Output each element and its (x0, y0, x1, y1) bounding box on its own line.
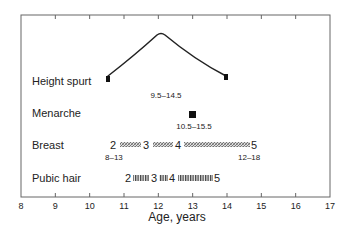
stage-5: 5 (251, 139, 257, 151)
stage-2: 2 (125, 172, 131, 184)
stage-2: 2 (110, 139, 116, 151)
plot-frame (21, 15, 330, 197)
x-tick-label: 11 (119, 201, 128, 211)
row-label: Menarche (32, 107, 81, 119)
height-spurt-curve (108, 34, 226, 80)
row-menarche: Menarche 10.5–15.5 (32, 107, 212, 131)
stage-3: 3 (143, 139, 149, 151)
height-spurt-start-marker (106, 76, 110, 82)
breast-start-range: 8–13 (105, 153, 123, 162)
stage-4: 4 (169, 172, 175, 184)
menarche-marker (189, 111, 196, 118)
x-tick-label: 8 (18, 201, 23, 211)
height-spurt-end-marker (224, 74, 228, 80)
puberty-timeline-chart: 891011121314151617 Age, years Height spu… (0, 0, 352, 236)
x-axis-ticks (55, 15, 295, 197)
row-label: Breast (32, 139, 64, 151)
menarche-range: 10.5–15.5 (176, 122, 212, 131)
x-axis-label: Age, years (148, 210, 205, 224)
row-height-spurt: Height spurt 9.5–14.5 (32, 34, 228, 101)
x-tick-label: 10 (85, 201, 95, 211)
x-tick-label: 9 (53, 201, 58, 211)
x-tick-label: 15 (256, 201, 266, 211)
row-pubic-hair: Pubic hair 2 3 4 5 (32, 172, 220, 184)
x-tick-label: 14 (222, 201, 232, 211)
row-label: Pubic hair (32, 172, 81, 184)
stage-5: 5 (214, 172, 220, 184)
row-label: Height spurt (32, 75, 91, 87)
x-tick-label: 17 (325, 201, 335, 211)
stage-3: 3 (151, 172, 157, 184)
breast-end-range: 12–18 (238, 153, 261, 162)
height-spurt-range: 9.5–14.5 (150, 91, 182, 100)
stage-4: 4 (175, 139, 181, 151)
row-breast: Breast 2 3 4 5 8–13 12–18 (32, 139, 261, 162)
x-tick-label: 16 (291, 201, 301, 211)
